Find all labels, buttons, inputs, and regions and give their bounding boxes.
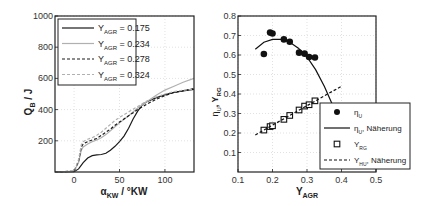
y-tick-label: 200 bbox=[38, 136, 53, 146]
x-tick-label: 0.4 bbox=[335, 175, 348, 185]
x-tick-label: 0 bbox=[72, 175, 77, 185]
x-tick-label: 0.3 bbox=[301, 175, 314, 185]
x-tick-label: 0.1 bbox=[232, 175, 245, 185]
series-line bbox=[55, 89, 194, 172]
right-chart: 0.10.20.30.40.50.10.20.30.40.50.60.70.8 … bbox=[210, 11, 410, 199]
x-tick-label: 0.2 bbox=[266, 175, 279, 185]
y-tick-label: 600 bbox=[38, 73, 53, 83]
left-legend: YAGR = 0.175YAGR = 0.234YAGR = 0.278YAGR… bbox=[58, 19, 150, 85]
series-line bbox=[55, 89, 194, 173]
x-tick-label: 0.5 bbox=[370, 175, 383, 185]
right-x-axis-label: YAGR bbox=[296, 186, 318, 199]
y-tick-label: 0.2 bbox=[223, 128, 236, 138]
y-tick-label: 1000 bbox=[33, 11, 53, 21]
x-tick-label: 50 bbox=[114, 175, 124, 185]
y-tick-label: 0.8 bbox=[223, 11, 236, 21]
y-tick-label: 400 bbox=[38, 105, 53, 115]
data-point bbox=[261, 51, 268, 58]
left-chart: 0501002004006008001000 YAGR = 0.175YAGR … bbox=[23, 11, 194, 199]
y-tick-label: 0.3 bbox=[223, 109, 236, 119]
figure: 0501002004006008001000 YAGR = 0.175YAGR … bbox=[0, 0, 422, 206]
left-y-axis-label: QB / J bbox=[23, 89, 36, 116]
y-tick-label: 0.6 bbox=[223, 50, 236, 60]
y-tick-label: 0.5 bbox=[223, 70, 236, 80]
data-point bbox=[261, 127, 267, 133]
left-x-axis-label: αKW / °KW bbox=[101, 186, 148, 199]
data-point bbox=[287, 113, 293, 119]
y-tick-label: 0.7 bbox=[223, 31, 236, 41]
y-tick-label: 0.4 bbox=[223, 89, 236, 99]
series-line bbox=[55, 89, 194, 172]
right-y-axis-label: ηU, YRG bbox=[210, 87, 222, 117]
data-point bbox=[269, 30, 276, 37]
y-tick-label: 0.1 bbox=[223, 148, 236, 158]
left-series bbox=[55, 78, 194, 172]
x-tick-label: 100 bbox=[157, 175, 172, 185]
y-tick-label: 800 bbox=[38, 42, 53, 52]
right-legend: ηUηU, NäherungYRGYHU, Näherung bbox=[320, 103, 410, 169]
data-point bbox=[312, 54, 319, 61]
data-point bbox=[296, 49, 303, 56]
